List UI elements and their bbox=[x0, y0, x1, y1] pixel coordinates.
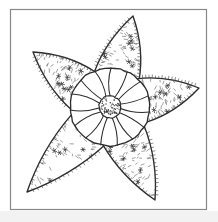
star-mark bbox=[47, 125, 52, 130]
star-mark bbox=[48, 97, 53, 102]
star-mark bbox=[183, 110, 187, 114]
starfish-artwork: Starfish line drawing bbox=[0, 0, 218, 222]
star-mark bbox=[96, 27, 102, 32]
star-mark bbox=[126, 178, 131, 183]
starfish-svg: Starfish line drawing bbox=[0, 0, 218, 222]
coloring-page: Starfish line drawing bbox=[0, 0, 218, 222]
star-mark bbox=[108, 185, 112, 188]
star-mark bbox=[76, 172, 81, 176]
star-mark bbox=[45, 132, 49, 136]
hub-outline bbox=[99, 96, 121, 118]
star-mark bbox=[99, 28, 103, 32]
center-hub-group bbox=[99, 96, 121, 118]
